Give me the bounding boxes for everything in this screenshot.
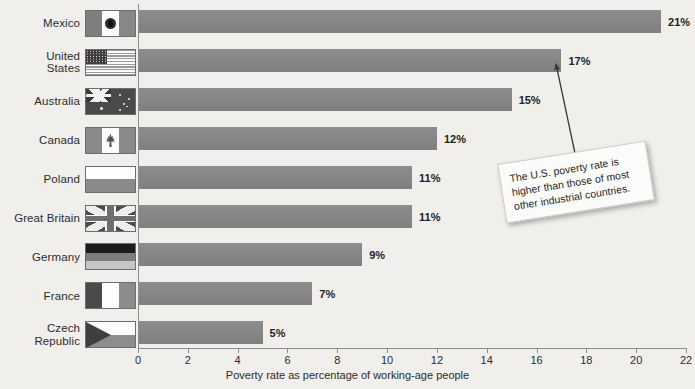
flag-united-states-icon bbox=[85, 49, 136, 76]
category-label: Australia bbox=[34, 95, 80, 107]
category-row: Mexico bbox=[0, 10, 136, 37]
bar-value-label: 21% bbox=[668, 16, 690, 28]
bar bbox=[138, 205, 412, 228]
x-axis-tick bbox=[686, 348, 687, 353]
x-axis-tick bbox=[487, 348, 488, 353]
category-label: United States bbox=[46, 50, 80, 75]
bar bbox=[138, 10, 661, 33]
flag-poland-icon bbox=[85, 166, 136, 193]
category-label: Canada bbox=[39, 134, 80, 146]
category-row: Czech Republic bbox=[0, 321, 136, 348]
bar-value-label: 12% bbox=[444, 133, 466, 145]
x-axis-tick bbox=[138, 348, 139, 353]
x-axis-tick bbox=[636, 348, 637, 353]
bar bbox=[138, 243, 362, 266]
x-axis-tick bbox=[287, 348, 288, 353]
category-row: Poland bbox=[0, 166, 136, 193]
x-axis-tick bbox=[337, 348, 338, 353]
x-axis-tick-label: 22 bbox=[671, 354, 695, 366]
bar-value-label: 5% bbox=[270, 327, 286, 339]
bar bbox=[138, 282, 312, 305]
poverty-rate-bar-chart: MexicoUnited StatesAustraliaCanadaPoland… bbox=[0, 0, 695, 389]
bar bbox=[138, 321, 263, 344]
bar-value-label: 11% bbox=[419, 172, 440, 184]
category-label: Czech Republic bbox=[0, 322, 80, 347]
x-axis-title: Poverty rate as percentage of working-ag… bbox=[0, 369, 695, 381]
category-row: France bbox=[0, 282, 136, 309]
x-axis-tick-label: 4 bbox=[223, 354, 253, 366]
x-axis-tick bbox=[586, 348, 587, 353]
y-axis-line bbox=[138, 4, 139, 348]
category-label: Poland bbox=[44, 173, 80, 185]
x-axis-tick-label: 16 bbox=[522, 354, 552, 366]
category-label: Great Britain bbox=[14, 212, 80, 224]
category-label: Mexico bbox=[43, 17, 80, 29]
flag-france-icon bbox=[85, 282, 136, 309]
bar bbox=[138, 49, 561, 72]
x-axis-tick-label: 0 bbox=[123, 354, 153, 366]
x-axis-tick-label: 6 bbox=[272, 354, 302, 366]
flag-australia-icon bbox=[85, 88, 136, 115]
x-axis-tick-label: 14 bbox=[472, 354, 502, 366]
category-label: France bbox=[44, 290, 80, 302]
x-axis-tick-label: 12 bbox=[422, 354, 452, 366]
callout-note-text: The U.S. poverty rate is higher than tho… bbox=[498, 142, 653, 222]
category-label: Germany bbox=[32, 251, 80, 263]
x-axis-tick-label: 20 bbox=[621, 354, 651, 366]
x-axis-tick-label: 18 bbox=[571, 354, 601, 366]
category-row: Australia bbox=[0, 88, 136, 115]
bar-value-label: 11% bbox=[419, 211, 440, 223]
x-axis-tick-label: 10 bbox=[372, 354, 402, 366]
category-row: United States bbox=[0, 49, 136, 76]
bar bbox=[138, 127, 437, 150]
flag-czech-republic-icon bbox=[85, 321, 136, 348]
bar bbox=[138, 88, 512, 111]
flag-germany-icon bbox=[85, 243, 136, 270]
x-axis-tick bbox=[238, 348, 239, 353]
bar-value-label: 9% bbox=[369, 249, 385, 261]
category-row: Germany bbox=[0, 243, 136, 270]
x-axis-tick bbox=[188, 348, 189, 353]
bar bbox=[138, 166, 412, 189]
x-axis-tick bbox=[387, 348, 388, 353]
bar-value-label: 17% bbox=[568, 55, 590, 67]
category-row: Great Britain bbox=[0, 205, 136, 232]
bar-value-label: 7% bbox=[319, 288, 335, 300]
flag-canada-icon bbox=[85, 127, 136, 154]
x-axis-tick-label: 2 bbox=[173, 354, 203, 366]
x-axis-tick bbox=[537, 348, 538, 353]
category-row: Canada bbox=[0, 127, 136, 154]
x-axis-line bbox=[138, 348, 686, 349]
x-axis-tick bbox=[437, 348, 438, 353]
x-axis-tick-label: 8 bbox=[322, 354, 352, 366]
callout-note: The U.S. poverty rate is higher than tho… bbox=[497, 141, 655, 224]
flag-mexico-icon bbox=[85, 10, 136, 37]
bar-value-label: 15% bbox=[519, 94, 541, 106]
flag-great-britain-icon bbox=[85, 205, 136, 232]
